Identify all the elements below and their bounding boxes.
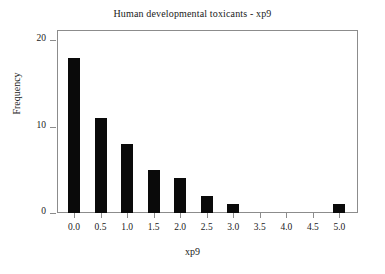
bar: [201, 196, 213, 213]
x-axis-tick-mark: [101, 213, 102, 218]
x-axis-tick-label: 2.5: [193, 222, 221, 232]
x-axis-tick-mark: [154, 213, 155, 218]
x-axis-tick-mark: [207, 213, 208, 218]
x-axis-tick-mark: [74, 213, 75, 218]
y-axis-tick-label: 20: [37, 33, 47, 43]
plot-area: 010200.00.51.01.52.02.53.03.54.04.55.0: [0, 0, 385, 274]
x-axis-tick-mark: [313, 213, 314, 218]
bar: [68, 58, 80, 213]
x-axis-tick-mark: [286, 213, 287, 218]
bar: [333, 204, 345, 213]
bar: [148, 170, 160, 213]
x-axis-tick-label: 4.5: [299, 222, 327, 232]
x-axis-tick-label: 0.5: [87, 222, 115, 232]
x-axis-tick-label: 5.0: [325, 222, 353, 232]
x-axis-tick-mark: [127, 213, 128, 218]
bar: [227, 204, 239, 213]
x-axis-tick-mark: [260, 213, 261, 218]
bar: [121, 144, 133, 213]
x-axis-tick-label: 1.0: [113, 222, 141, 232]
y-axis-tick-label: 0: [41, 206, 46, 216]
x-axis-tick-label: 1.5: [140, 222, 168, 232]
x-axis-tick-label: 4.0: [272, 222, 300, 232]
bar: [174, 178, 186, 213]
y-axis-tick-mark: [50, 40, 56, 41]
y-axis-tick-mark: [50, 127, 56, 128]
x-axis-tick-label: 3.5: [246, 222, 274, 232]
x-axis-tick-mark: [180, 213, 181, 218]
x-axis-tick-label: 3.0: [219, 222, 247, 232]
bar: [95, 118, 107, 213]
y-axis-tick-label: 10: [37, 120, 47, 130]
chart-page: Human developmental toxicants - xp9 Freq…: [0, 0, 385, 274]
x-axis-tick-label: 2.0: [166, 222, 194, 232]
y-axis-tick-mark: [50, 213, 56, 214]
x-axis-tick-mark: [233, 213, 234, 218]
x-axis-tick-label: 0.0: [60, 222, 88, 232]
x-axis-tick-mark: [339, 213, 340, 218]
